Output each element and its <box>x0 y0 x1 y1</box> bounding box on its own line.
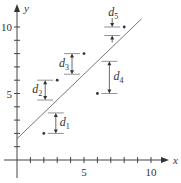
data-point <box>42 132 45 135</box>
arrow-down-icon <box>107 90 111 94</box>
arrow-down-icon <box>54 129 58 133</box>
x-tick-label: 10 <box>146 166 158 178</box>
arrow-down-icon <box>110 23 114 27</box>
deviation-label: d1 <box>60 115 70 131</box>
x-axis-arrow-icon <box>161 157 169 163</box>
deviation-label: d3 <box>59 56 69 72</box>
arrow-up-icon <box>54 113 58 117</box>
y-tick-label: 5 <box>7 88 13 100</box>
deviation-label: d2 <box>32 82 42 98</box>
axes: 510510xy <box>1 2 178 178</box>
scatter-chart: 510510xy d1d2d3d4d5 <box>0 0 181 183</box>
arrow-up-icon <box>110 36 114 40</box>
deviation-label: d4 <box>113 69 123 85</box>
data-point <box>56 79 59 82</box>
y-axis-arrow-icon <box>14 4 20 12</box>
x-axis-label: x <box>172 154 178 166</box>
deviation-markers: d1d2d3d4d5 <box>32 5 123 133</box>
arrow-down-icon <box>70 70 74 74</box>
arrow-up-icon <box>70 54 74 58</box>
data-point <box>96 92 99 95</box>
arrow-down-icon <box>43 96 47 100</box>
x-tick-label: 5 <box>81 166 87 178</box>
deviation-label: d5 <box>108 5 118 21</box>
y-axis-label: y <box>23 2 29 14</box>
arrow-up-icon <box>107 61 111 65</box>
data-point <box>83 52 86 55</box>
data-point <box>123 26 126 29</box>
arrow-up-icon <box>43 80 47 84</box>
y-tick-label: 10 <box>1 21 13 33</box>
